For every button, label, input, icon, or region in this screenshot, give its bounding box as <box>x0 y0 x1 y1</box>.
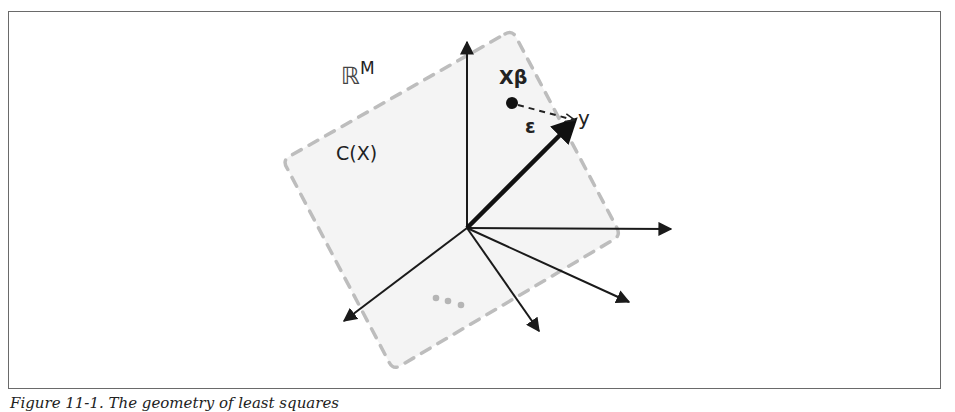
column-space-label: C(X) <box>336 142 377 164</box>
projection-point <box>506 97 518 109</box>
residual-label: ε <box>525 115 536 137</box>
axis-arrow-right <box>467 228 671 229</box>
target-label: y <box>578 106 590 130</box>
space-label: ℝM <box>341 58 375 90</box>
projection-label: Xβ <box>499 66 527 88</box>
figure-caption: Figure 11-1. The geometry of least squar… <box>10 394 339 412</box>
column-space-plane <box>285 33 618 368</box>
